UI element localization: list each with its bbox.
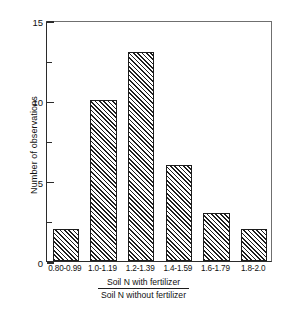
- bar: [203, 213, 229, 261]
- x-axis-tick-label: 1.0-1.19: [84, 264, 122, 273]
- y-axis-title: Number of observations: [29, 50, 39, 240]
- plot-area: 051015: [46, 21, 272, 262]
- y-axis-tick-label: 15: [32, 17, 43, 28]
- y-axis-tick-minor: [47, 62, 52, 63]
- x-axis-title-fraction: Soil N with fertilizer Soil N without fe…: [98, 277, 189, 300]
- bar: [166, 165, 192, 261]
- bar: [241, 229, 267, 261]
- x-axis-title: Soil N with fertilizer Soil N without fe…: [0, 277, 287, 300]
- x-axis-tick-label: 1.8-2.0: [234, 264, 272, 273]
- x-axis-tick-label: 0.80-0.99: [46, 264, 84, 273]
- y-axis-tick-major: 5: [47, 182, 54, 183]
- y-axis-tick-minor: [47, 142, 52, 143]
- y-axis-tick-minor: [47, 222, 52, 223]
- bar: [128, 52, 154, 261]
- bar: [53, 229, 79, 261]
- x-axis-tick-label: 1.4-1.59: [159, 264, 197, 273]
- x-axis-title-numerator: Soil N with fertilizer: [98, 277, 189, 289]
- x-axis-tick-labels: 0.80-0.991.0-1.191.2-1.391.4-1.591.6-1.7…: [46, 264, 272, 278]
- y-axis-tick-label: 0: [38, 257, 43, 268]
- y-axis-tick-major: 10: [47, 102, 54, 103]
- y-axis-tick-major: 15: [47, 21, 54, 22]
- y-axis-tick-label: 10: [32, 97, 43, 108]
- histogram-figure: Number of observations 051015 0.80-0.991…: [0, 0, 287, 310]
- x-axis-tick-label: 1.2-1.39: [121, 264, 159, 273]
- bar: [90, 100, 116, 261]
- x-axis-tick-label: 1.6-1.79: [197, 264, 235, 273]
- x-axis-title-denominator: Soil N without fertilizer: [98, 289, 189, 300]
- y-axis-tick-label: 5: [38, 177, 43, 188]
